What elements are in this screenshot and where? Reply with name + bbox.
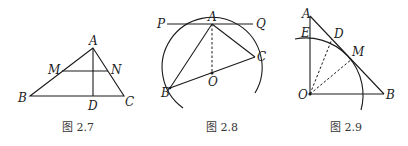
label-e: E [300, 26, 310, 40]
label-a: A [207, 10, 217, 24]
caption-2-7: 图 2.7 [62, 121, 94, 134]
figure-2-8: P A Q C O B 图 2.8 [156, 10, 266, 134]
segment-ac [212, 24, 255, 57]
label-a: A [301, 7, 311, 21]
label-d: D [87, 99, 98, 113]
label-c: C [257, 50, 266, 64]
label-b: B [17, 91, 27, 105]
segment-om-dashed [310, 59, 352, 94]
caption-2-9: 图 2.9 [330, 121, 362, 134]
figure-2-9: A E D M O B 图 2.9 [295, 7, 395, 134]
segment-ab [170, 24, 212, 88]
label-b: B [385, 88, 395, 102]
label-a: A [88, 34, 98, 48]
label-b: B [160, 86, 170, 100]
label-q: Q [256, 17, 266, 31]
segment-od-dashed [310, 39, 332, 94]
figure-2-7: A M N B D C 图 2.7 [17, 34, 134, 134]
label-o: O [208, 75, 218, 89]
label-o: O [298, 88, 308, 102]
caption-2-8: 图 2.8 [206, 121, 238, 134]
label-n: N [110, 63, 122, 77]
figures-canvas: A M N B D C 图 2.7 P A Q C O B 图 2.8 A E … [0, 0, 408, 146]
label-m: M [351, 45, 365, 59]
label-c: C [125, 95, 134, 109]
triangle-abc [30, 48, 124, 96]
label-p: P [156, 17, 166, 31]
label-m: M [47, 63, 61, 77]
label-d: D [333, 27, 344, 41]
point-o [308, 92, 311, 95]
